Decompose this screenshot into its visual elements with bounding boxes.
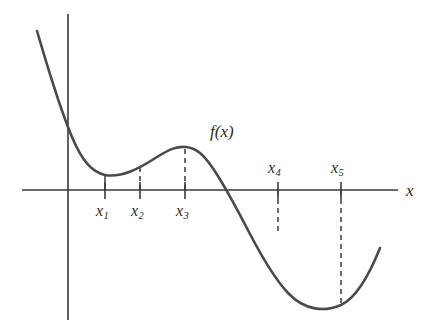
plot-canvas (0, 0, 427, 332)
dashed-connectors (140, 147, 341, 305)
x-axis-label: x (406, 182, 414, 199)
function-label: f(x) (210, 123, 234, 140)
tick-label-x5: x5 (331, 160, 343, 176)
subscript-5: 5 (339, 167, 344, 178)
tick-label-x3: x3 (176, 203, 188, 219)
function-graph-figure: x f(x) x1 x2 x3 x4 x5 (0, 0, 427, 332)
subscript-2: 2 (139, 210, 144, 221)
subscript-1: 1 (104, 210, 109, 221)
function-curve (37, 31, 380, 309)
subscript-4: 4 (276, 167, 281, 178)
tick-label-x2: x2 (131, 203, 143, 219)
tick-label-x1: x1 (96, 203, 108, 219)
tick-label-x4: x4 (268, 160, 280, 176)
subscript-3: 3 (184, 210, 189, 221)
